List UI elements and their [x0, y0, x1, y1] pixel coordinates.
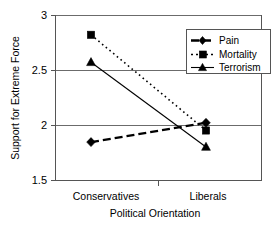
y-tick-label-2-5: 2.5	[32, 64, 47, 76]
y-tick-label-2: 2	[41, 119, 47, 131]
chart-legend: Pain Mortality Terrorism	[187, 30, 271, 74]
legend-swatch-mortality-marker	[199, 51, 206, 58]
y-axis-title: Support for Extreme Force	[9, 36, 21, 160]
series-mortality-point-conservatives	[87, 31, 94, 38]
chart-canvas: 3 2.5 2 1.5 Support for Extreme Force Co…	[0, 0, 277, 236]
legend-label-mortality: Mortality	[219, 49, 257, 60]
y-tick-label-3: 3	[41, 9, 47, 21]
x-tick-label-conservatives: Conservatives	[73, 190, 140, 202]
legend-label-terrorism: Terrorism	[219, 62, 261, 73]
y-tick-marks	[51, 16, 55, 181]
chart-figure: 3 2.5 2 1.5 Support for Extreme Force Co…	[0, 0, 277, 236]
y-tick-label-1-5: 1.5	[32, 174, 47, 186]
x-axis-title: Political Orientation	[110, 207, 201, 219]
series-mortality-point-liberals	[202, 127, 209, 134]
legend-label-pain: Pain	[219, 35, 239, 46]
x-tick-label-liberals: Liberals	[190, 190, 227, 202]
